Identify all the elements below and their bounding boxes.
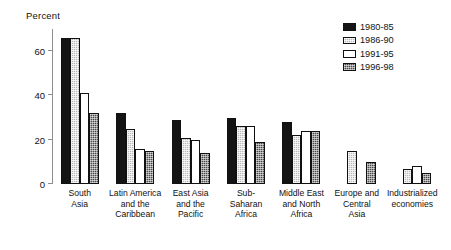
bar (292, 135, 302, 184)
y-axis-tick-label: 40 (34, 90, 45, 101)
bar (246, 126, 256, 184)
bar (70, 38, 80, 184)
bar (61, 38, 71, 184)
bar (403, 169, 413, 185)
bar (80, 93, 90, 184)
y-axis-title: Percent (26, 10, 60, 21)
solid-black-swatch (343, 23, 356, 31)
legend-item[interactable]: 1980-85 (343, 22, 394, 32)
bar (366, 162, 376, 184)
legend-item-label: 1996-98 (360, 62, 394, 72)
x-axis-label: Sub-SaharanAfrica (218, 188, 273, 246)
x-axis-label: Industrializedeconomies (385, 188, 440, 246)
bar (282, 122, 292, 184)
bar-group (107, 29, 162, 184)
bar-group (52, 29, 107, 184)
x-axis-label: Europe andCentralAsia (329, 188, 384, 246)
bar-group (274, 29, 329, 184)
legend-item[interactable]: 1996-98 (343, 62, 394, 72)
bar (301, 131, 311, 184)
x-axis-label: SouthAsia (52, 188, 107, 246)
y-axis-tick-label: 20 (34, 134, 45, 145)
y-axis-tick-label: 60 (34, 46, 45, 57)
legend-item[interactable]: 1986-90 (343, 35, 394, 45)
bar-group (218, 29, 273, 184)
bar (191, 140, 201, 184)
dark-grey-hatch-swatch (343, 63, 356, 71)
legend-item-label: 1991-95 (360, 49, 394, 59)
legend-item[interactable]: 1991-95 (343, 49, 394, 59)
bar (116, 113, 126, 184)
x-axis-labels: SouthAsiaLatin Americaand theCaribbeanEa… (52, 188, 440, 246)
bar (311, 131, 321, 184)
bar-group (163, 29, 218, 184)
bar (145, 151, 155, 184)
bar (172, 120, 182, 184)
bar (135, 149, 145, 184)
bar (236, 126, 246, 184)
legend-item-label: 1986-90 (360, 35, 394, 45)
x-axis-label: Middle Eastand NorthAfrica (274, 188, 329, 246)
bar (412, 166, 422, 184)
bar (422, 173, 432, 184)
legend: 1980-851986-901991-951996-98 (343, 22, 394, 72)
bar (181, 138, 191, 185)
legend-item-label: 1980-85 (360, 22, 394, 32)
bar (126, 129, 136, 184)
bar (255, 142, 265, 184)
white-swatch (343, 50, 356, 58)
bar (89, 113, 99, 184)
y-axis-tick-label: 0 (40, 179, 45, 190)
bar (200, 153, 210, 184)
bar (347, 151, 357, 184)
x-axis-label: East Asiaand thePacific (163, 188, 218, 246)
x-axis-label: Latin Americaand theCaribbean (107, 188, 162, 246)
bar (227, 118, 237, 184)
bar-chart: Percent 0204060 SouthAsiaLatin Americaan… (0, 0, 451, 250)
light-grey-hatch-swatch (343, 37, 356, 45)
